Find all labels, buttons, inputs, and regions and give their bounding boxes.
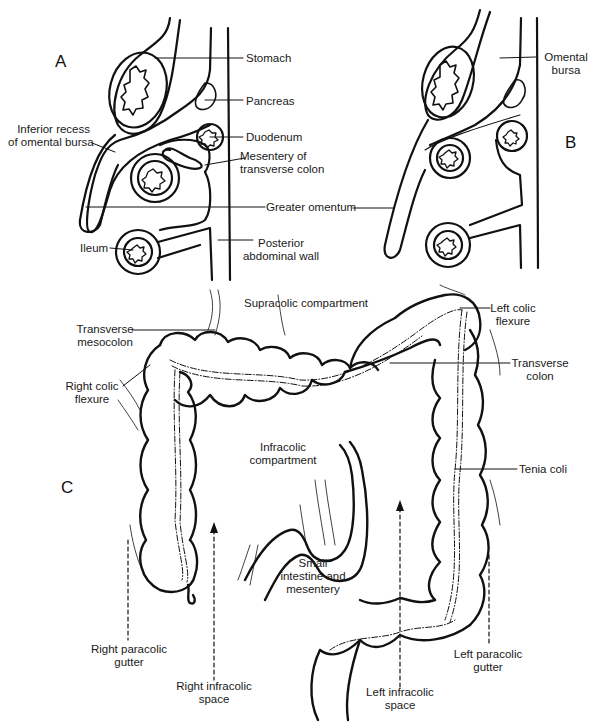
label-small-intestine-mesentery: Small intestine and mesentery (278, 557, 348, 596)
label-infracolic-compartment: Infracolic compartment (245, 441, 321, 467)
label-left-paracolic-gutter: Left paracolic gutter (446, 648, 530, 674)
right-infracolic-arrowhead (210, 522, 218, 533)
panel-b-drawing (385, 10, 538, 268)
label-right-infracolic-space: Right infracolic space (170, 680, 258, 706)
label-stomach: Stomach (246, 52, 291, 65)
panel-c-drawing (118, 285, 500, 720)
label-duodenum: Duodenum (246, 131, 302, 144)
label-omental-bursa: Omental bursa (536, 51, 596, 77)
label-left-infracolic-space: Left infracolic space (358, 686, 442, 712)
panel-letter-c: C (61, 478, 73, 498)
left-infracolic-arrowhead (396, 500, 404, 511)
label-tenia-coli: Tenia coli (519, 463, 567, 476)
label-ileum: Ileum (80, 242, 108, 255)
label-transverse-mesocolon: Transverse mesocolon (72, 323, 138, 349)
label-transverse-colon: Transverse colon (510, 357, 570, 383)
label-left-colic-flexure: Left colic flexure (483, 302, 543, 328)
panel-letter-b: B (565, 133, 576, 153)
label-posterior-abdominal-wall: Posterior abdominal wall (236, 237, 326, 263)
label-inferior-recess-omental-bursa: Inferior recess of omental bursa (8, 123, 90, 149)
label-supracolic-compartment: Supracolic compartment (244, 297, 368, 310)
label-right-paracolic-gutter: Right paracolic gutter (88, 643, 170, 669)
label-pancreas: Pancreas (246, 95, 295, 108)
panel-letter-a: A (55, 52, 66, 72)
panel-a-drawing (80, 18, 230, 280)
label-greater-omentum: Greater omentum (266, 201, 356, 214)
label-mesentery-transverse-colon: Mesentery of transverse colon (240, 150, 324, 176)
label-right-colic-flexure: Right colic flexure (60, 380, 124, 406)
